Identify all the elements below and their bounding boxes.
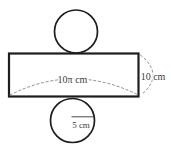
cylinder-net-canvas: 10π cm 10 cm 5 cm (0, 0, 171, 149)
height-label: 10 cm (141, 71, 166, 82)
cylinder-net-diagram: 10π cm 10 cm 5 cm (0, 0, 171, 149)
radius-label: 5 cm (72, 120, 90, 130)
circumference-label: 10π cm (58, 74, 88, 85)
top-circle (55, 10, 98, 53)
